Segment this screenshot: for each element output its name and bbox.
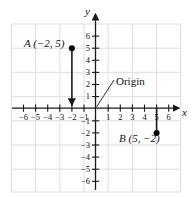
x-tick-label: −3	[55, 112, 64, 122]
y-tick-label: −3	[81, 140, 90, 150]
x-tick-label: −5	[31, 112, 40, 122]
coordinate-plane-figure: −6 −5 −4 −3 −2 −1 1 2 3 4 5 6 6 5 4 3 2 …	[0, 0, 193, 197]
origin-label: Origin	[116, 76, 145, 87]
point-b-label: B (5, −2)	[119, 133, 160, 144]
y-tick-label: −5	[81, 164, 90, 174]
x-tick-label: −4	[43, 112, 53, 122]
x-tick-label: 3	[130, 112, 134, 122]
x-tick-label: −6	[19, 112, 28, 122]
x-tick-label: 2	[118, 112, 122, 122]
x-tick-label: −2	[67, 112, 76, 122]
point-a-marker	[69, 45, 75, 51]
point-a-label: A (−2, 5)	[24, 38, 65, 49]
y-tick-label: −6	[81, 176, 90, 186]
y-tick-label: 4	[86, 55, 91, 65]
y-tick-label: 2	[86, 79, 90, 89]
y-tick-label: 3	[86, 67, 90, 77]
y-tick-label: −4	[81, 152, 91, 162]
coordinate-plane-svg: −6 −5 −4 −3 −2 −1 1 2 3 4 5 6 6 5 4 3 2 …	[0, 0, 193, 197]
x-tick-label: 1	[106, 112, 110, 122]
y-tick-label: 6	[86, 31, 90, 41]
y-axis-label: y	[85, 6, 90, 17]
y-tick-label: 1	[86, 91, 90, 101]
y-tick-label: −2	[81, 128, 90, 138]
x-tick-label: 6	[167, 112, 171, 122]
y-tick-label: −1	[81, 116, 90, 126]
x-axis-label: x	[182, 107, 187, 118]
y-tick-label: 5	[86, 43, 90, 53]
